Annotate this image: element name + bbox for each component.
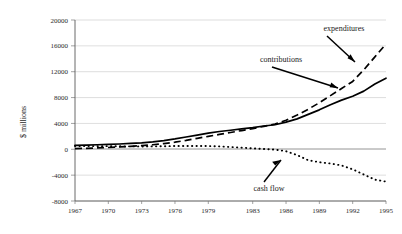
y-tick-label: 8000 [54, 94, 69, 102]
y-tick-label: 0 [65, 146, 69, 154]
x-tick-label: 1970 [101, 207, 116, 215]
series-line-expenditures [75, 44, 386, 149]
y-tick-label: -4000 [52, 172, 69, 180]
y-tick-label: 12000 [51, 68, 69, 76]
annotation-cash-flow-label: cash flow [254, 184, 285, 193]
annotation-contributions-arrowhead [330, 82, 338, 88]
y-tick-label: 20000 [51, 17, 69, 25]
series-layer [75, 44, 386, 182]
y-axis-title-group: $ millions [19, 106, 28, 138]
y-tick-label: -8000 [52, 198, 69, 206]
y-axis-ticks [71, 20, 75, 201]
series-line-contributions [75, 78, 386, 145]
annotation-cash-flow-leader [264, 160, 281, 182]
x-tick-label: 1992 [346, 207, 361, 215]
x-tick-label: 1995 [379, 207, 394, 215]
y-axis-title: $ millions [19, 106, 28, 138]
annotation-expenditures-label: expenditures [324, 24, 365, 33]
y-axis-tick-labels: 200001600012000800040000-4000-8000 [51, 17, 69, 206]
annotation-expenditures: expenditures [324, 24, 365, 62]
line-chart: $ millions 200001600012000800040000-4000… [0, 0, 402, 234]
x-tick-label: 1973 [135, 207, 150, 215]
y-tick-label: 16000 [51, 42, 69, 50]
x-tick-label: 1967 [68, 207, 83, 215]
series-line-cash-flow [75, 146, 386, 182]
annotation-cash-flow: cash flow [254, 160, 285, 193]
annotation-contributions-label: contributions [260, 55, 302, 64]
x-tick-label: 1976 [168, 207, 183, 215]
y-tick-label: 4000 [54, 120, 69, 128]
x-tick-label: 1983 [246, 207, 261, 215]
chart-container: $ millions 200001600012000800040000-4000… [0, 0, 402, 234]
x-tick-label: 1986 [279, 207, 294, 215]
x-tick-label: 1989 [312, 207, 327, 215]
x-tick-label: 1979 [201, 207, 216, 215]
x-axis-tick-labels: 1967197019731976197919831986198919921995 [68, 207, 394, 215]
annotation-contributions-leader [272, 67, 338, 88]
